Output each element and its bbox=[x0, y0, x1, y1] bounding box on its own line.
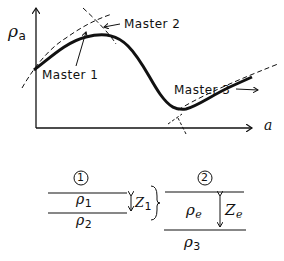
subscript: 3 bbox=[193, 240, 201, 253]
rho-symbol: ρ bbox=[186, 201, 195, 219]
z-symbol: Z bbox=[135, 195, 145, 210]
master-3-pointer bbox=[236, 89, 258, 90]
apparent-resistivity-diagram: ρa a Master 1 Master 2 Master 3 1 2 ρ1 ρ… bbox=[0, 0, 284, 261]
subscript: 2 bbox=[85, 218, 93, 231]
diagram-graphics bbox=[0, 0, 284, 261]
rho-symbol: ρ bbox=[184, 233, 193, 251]
subscript: e bbox=[236, 208, 243, 221]
case-2-top-layer-resistivity: ρe bbox=[186, 204, 202, 221]
case-1-bottom-layer-resistivity: ρ2 bbox=[76, 214, 92, 231]
z-symbol: Z bbox=[225, 201, 236, 219]
rho-symbol: ρ bbox=[76, 212, 85, 228]
case-2-thickness: Ze bbox=[225, 204, 243, 221]
subscript: 1 bbox=[145, 200, 153, 213]
case-1-number: 1 bbox=[77, 172, 85, 184]
case-2-bottom-layer-resistivity: ρ3 bbox=[184, 236, 201, 253]
master-2-pointer bbox=[104, 24, 120, 27]
y-axis-symbol: ρ bbox=[8, 21, 19, 41]
subscript: e bbox=[195, 208, 202, 221]
rho-symbol: ρ bbox=[76, 191, 85, 207]
case-2-number: 2 bbox=[201, 172, 209, 184]
master-3-label: Master 3 bbox=[174, 84, 230, 96]
case-1-thickness: Z1 bbox=[135, 197, 152, 213]
master-1-label: Master 1 bbox=[42, 69, 98, 81]
case-1-top-layer-resistivity: ρ1 bbox=[76, 193, 92, 210]
x-axis-label: a bbox=[264, 119, 273, 131]
subscript: 1 bbox=[85, 197, 93, 210]
minimum-dashed-cross bbox=[168, 114, 186, 134]
y-axis-label: ρa bbox=[8, 25, 26, 42]
y-axis-subscript: a bbox=[19, 29, 27, 43]
master-2-label: Master 2 bbox=[124, 18, 180, 30]
